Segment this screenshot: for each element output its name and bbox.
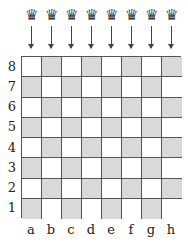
square-g6 xyxy=(142,98,162,118)
queen-column-f: ♛ xyxy=(121,8,141,50)
square-a8 xyxy=(22,57,42,77)
rank-label: 5 xyxy=(6,117,18,137)
queen-column-g: ♛ xyxy=(141,8,161,50)
square-d6 xyxy=(82,98,102,118)
square-c8 xyxy=(62,57,82,77)
square-h2 xyxy=(162,179,182,199)
square-e5 xyxy=(102,118,122,138)
square-c3 xyxy=(62,158,82,178)
queen-column-c: ♛ xyxy=(61,8,81,50)
square-g7 xyxy=(142,77,162,97)
down-arrow-icon xyxy=(91,26,92,48)
square-c1 xyxy=(62,199,82,219)
square-c2 xyxy=(62,179,82,199)
square-b2 xyxy=(42,179,62,199)
square-d5 xyxy=(82,118,102,138)
square-f4 xyxy=(122,138,142,158)
file-label: b xyxy=(41,222,61,237)
queen-column-b: ♛ xyxy=(41,8,61,50)
queen-column-a: ♛ xyxy=(21,8,41,50)
square-a1 xyxy=(22,199,42,219)
square-e3 xyxy=(102,158,122,178)
down-arrow-icon xyxy=(131,26,132,48)
square-f1 xyxy=(122,199,142,219)
square-g2 xyxy=(142,179,162,199)
square-h5 xyxy=(162,118,182,138)
square-f5 xyxy=(122,118,142,138)
file-label: c xyxy=(61,222,81,237)
chess-board xyxy=(21,56,181,218)
square-b5 xyxy=(42,118,62,138)
rank-label: 4 xyxy=(6,137,18,157)
down-arrow-icon xyxy=(111,26,112,48)
square-h6 xyxy=(162,98,182,118)
square-e4 xyxy=(102,138,122,158)
square-h1 xyxy=(162,199,182,219)
queen-column-d: ♛ xyxy=(81,8,101,50)
queen-icon: ♛ xyxy=(125,8,138,23)
queen-icon: ♛ xyxy=(85,8,98,23)
square-b7 xyxy=(42,77,62,97)
square-a7 xyxy=(22,77,42,97)
square-d3 xyxy=(82,158,102,178)
square-c7 xyxy=(62,77,82,97)
square-h8 xyxy=(162,57,182,77)
queen-column-h: ♛ xyxy=(161,8,181,50)
square-c6 xyxy=(62,98,82,118)
square-g1 xyxy=(142,199,162,219)
file-label: a xyxy=(21,222,41,237)
rank-label: 3 xyxy=(6,157,18,177)
queen-icon: ♛ xyxy=(105,8,118,23)
file-labels: a b c d e f g h xyxy=(21,222,181,237)
square-d1 xyxy=(82,199,102,219)
square-d7 xyxy=(82,77,102,97)
rank-label: 1 xyxy=(6,198,18,218)
square-b1 xyxy=(42,199,62,219)
square-c5 xyxy=(62,118,82,138)
square-f6 xyxy=(122,98,142,118)
square-e2 xyxy=(102,179,122,199)
square-f7 xyxy=(122,77,142,97)
rank-label: 2 xyxy=(6,178,18,198)
queen-icon: ♛ xyxy=(45,8,58,23)
square-f2 xyxy=(122,179,142,199)
square-e6 xyxy=(102,98,122,118)
square-c4 xyxy=(62,138,82,158)
file-label: e xyxy=(101,222,121,237)
square-a5 xyxy=(22,118,42,138)
queen-icon: ♛ xyxy=(165,8,178,23)
file-label: h xyxy=(161,222,181,237)
square-b3 xyxy=(42,158,62,178)
queen-column-e: ♛ xyxy=(101,8,121,50)
down-arrow-icon xyxy=(171,26,172,48)
square-d4 xyxy=(82,138,102,158)
square-e1 xyxy=(102,199,122,219)
square-f8 xyxy=(122,57,142,77)
square-h7 xyxy=(162,77,182,97)
queen-drop-row: ♛ ♛ ♛ ♛ ♛ ♛ ♛ ♛ xyxy=(21,8,181,50)
square-e7 xyxy=(102,77,122,97)
square-g4 xyxy=(142,138,162,158)
down-arrow-icon xyxy=(31,26,32,48)
rank-labels: 8 7 6 5 4 3 2 1 xyxy=(6,56,18,218)
square-f3 xyxy=(122,158,142,178)
queen-icon: ♛ xyxy=(145,8,158,23)
down-arrow-icon xyxy=(71,26,72,48)
square-b8 xyxy=(42,57,62,77)
square-a3 xyxy=(22,158,42,178)
queen-icon: ♛ xyxy=(25,8,38,23)
square-h3 xyxy=(162,158,182,178)
square-a2 xyxy=(22,179,42,199)
square-g5 xyxy=(142,118,162,138)
queen-icon: ♛ xyxy=(65,8,78,23)
square-a4 xyxy=(22,138,42,158)
rank-label: 8 xyxy=(6,56,18,76)
down-arrow-icon xyxy=(151,26,152,48)
file-label: g xyxy=(141,222,161,237)
square-b4 xyxy=(42,138,62,158)
square-g8 xyxy=(142,57,162,77)
square-d2 xyxy=(82,179,102,199)
rank-label: 7 xyxy=(6,76,18,96)
square-h4 xyxy=(162,138,182,158)
square-e8 xyxy=(102,57,122,77)
